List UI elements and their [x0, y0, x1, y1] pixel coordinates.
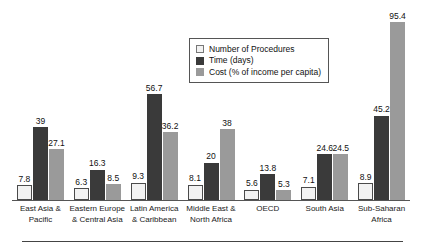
bar	[276, 190, 291, 200]
bar-value-label: 6.3	[75, 178, 87, 187]
x-axis-label-line: Sub-Saharan	[358, 204, 405, 213]
bar-column: 5.3	[276, 6, 291, 200]
bar-group: 8.12038	[187, 6, 235, 200]
bar-column: 9.3	[131, 6, 146, 200]
bar-value-label: 13.8	[260, 164, 277, 173]
bar-value-label: 5.6	[246, 179, 258, 188]
chart-legend: Number of Procedures Time (days) Cost (%…	[189, 38, 329, 83]
bar	[17, 185, 32, 200]
bar-column: 95.4	[390, 6, 405, 200]
bar-value-label: 5.3	[278, 180, 290, 189]
bar	[260, 174, 275, 200]
bar	[374, 116, 389, 200]
bar	[333, 154, 348, 200]
x-axis-label-line: North Africa	[183, 215, 240, 226]
bar-group: 6.316.38.5	[73, 6, 121, 200]
x-axis-label: South Asia	[296, 204, 353, 215]
bar-value-label: 20	[206, 152, 215, 161]
bar-column: 27.1	[49, 6, 64, 200]
x-axis-label-line: Middle East &	[186, 204, 235, 213]
bar-column: 24.5	[333, 6, 348, 200]
x-axis-line	[12, 200, 410, 201]
bar-column: 56.7	[147, 6, 162, 200]
bar-column: 8.1	[188, 6, 203, 200]
bar-group: 7.83927.1	[16, 6, 64, 200]
bar-value-label: 16.3	[89, 159, 106, 168]
legend-item-label: Cost (% of income per capita)	[209, 68, 321, 77]
bar	[33, 127, 48, 200]
legend-item-label: Time (days)	[209, 56, 254, 65]
bar	[49, 149, 64, 200]
footer-rule	[22, 241, 403, 242]
bar	[358, 183, 373, 200]
bar-column: 24.6	[317, 6, 332, 200]
bar	[90, 170, 105, 200]
x-axis-label-line: Latin America	[130, 204, 178, 213]
x-axis-label: Sub-SaharanAfrica	[353, 204, 410, 225]
x-axis-label: Eastern Europe& Central Asia	[69, 204, 126, 225]
x-axis-label-line: South Asia	[306, 204, 344, 213]
x-axis-label-line: Africa	[353, 215, 410, 226]
x-axis-label-line: Eastern Europe	[69, 204, 125, 213]
x-axis-label-line: & Caribbean	[126, 215, 183, 226]
bar	[163, 132, 178, 200]
bar-column: 36.2	[163, 6, 178, 200]
bar-value-label: 45.2	[373, 105, 390, 114]
bar-value-label: 8.5	[107, 174, 119, 183]
legend-item-label: Number of Procedures	[209, 45, 295, 54]
bar-value-label: 95.4	[389, 12, 406, 21]
bar-value-label: 27.1	[48, 139, 65, 148]
bar-value-label: 24.5	[332, 144, 349, 153]
bar-value-label: 24.6	[316, 144, 333, 153]
x-axis-label-line: East Asia &	[20, 204, 61, 213]
bar-value-label: 39	[36, 117, 45, 126]
bar	[74, 188, 89, 200]
bar	[301, 187, 316, 200]
bar-group: 5.613.85.3	[244, 6, 292, 200]
bar	[244, 190, 259, 200]
legend-swatch-icon	[196, 45, 204, 53]
plot-area: 7.83927.16.316.38.59.356.736.28.120385.6…	[12, 6, 410, 200]
bar-chart: 7.83927.16.316.38.59.356.736.28.120385.6…	[0, 0, 425, 250]
bar	[131, 183, 146, 200]
bar	[390, 22, 405, 200]
bar	[188, 185, 203, 200]
bar-column: 38	[220, 6, 235, 200]
bar-column: 16.3	[90, 6, 105, 200]
x-axis-label: OECD	[239, 204, 296, 215]
x-axis-label-line: OECD	[256, 204, 279, 213]
bar	[220, 129, 235, 200]
bar-column: 5.6	[244, 6, 259, 200]
bar-value-label: 8.1	[189, 174, 201, 183]
bar-value-label: 7.8	[19, 175, 31, 184]
bar-group: 9.356.736.2	[130, 6, 178, 200]
bar-column: 20	[204, 6, 219, 200]
legend-swatch-icon	[196, 68, 204, 76]
bar	[106, 184, 121, 200]
bar-value-label: 36.2	[162, 122, 179, 131]
bar	[317, 154, 332, 200]
legend-item-cost-percent-income: Cost (% of income per capita)	[196, 67, 321, 78]
bar-column: 8.5	[106, 6, 121, 200]
x-axis-label: Middle East &North Africa	[183, 204, 240, 225]
x-axis-label: East Asia &Pacific	[12, 204, 69, 225]
x-axis-label-line: Pacific	[12, 215, 69, 226]
bar	[204, 163, 219, 200]
legend-swatch-icon	[196, 57, 204, 65]
x-axis-label-line: & Central Asia	[69, 215, 126, 226]
bar-column: 13.8	[260, 6, 275, 200]
legend-item-time-days: Time (days)	[196, 55, 321, 66]
bar-column: 7.1	[301, 6, 316, 200]
bar-group: 8.945.295.4	[358, 6, 406, 200]
bar-column: 7.8	[17, 6, 32, 200]
bar	[147, 94, 162, 200]
bar-column: 6.3	[74, 6, 89, 200]
bar-value-label: 9.3	[132, 172, 144, 181]
legend-item-number-of-procedures: Number of Procedures	[196, 44, 321, 55]
bar-column: 45.2	[374, 6, 389, 200]
bar-column: 8.9	[358, 6, 373, 200]
bar-value-label: 7.1	[303, 176, 315, 185]
x-axis-label: Latin America& Caribbean	[126, 204, 183, 225]
bar-group: 7.124.624.5	[301, 6, 349, 200]
bar-value-label: 56.7	[146, 84, 163, 93]
